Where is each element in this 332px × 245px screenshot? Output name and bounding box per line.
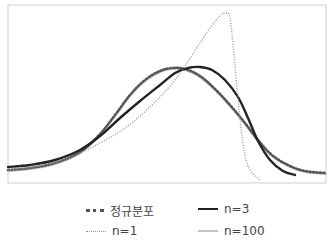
- legend-label: n=1: [112, 224, 137, 238]
- legend-item-normal: 정규분포: [86, 202, 154, 219]
- chart-legend: 정규분포 n=3 n=1 n=100: [0, 190, 332, 245]
- dotted-line-swatch-icon: [86, 231, 106, 232]
- legend-label: 정규분포: [110, 202, 154, 219]
- chart-frame: [8, 5, 326, 183]
- solid-line-swatch-icon: [198, 208, 218, 210]
- solid-line-swatch-icon: [198, 230, 218, 232]
- legend-item-n1: n=1: [86, 224, 137, 238]
- legend-item-n3: n=3: [198, 202, 249, 216]
- legend-item-n100: n=100: [198, 224, 265, 238]
- chart-plot-area: [0, 0, 332, 190]
- dotted-line-swatch-icon: [86, 209, 104, 212]
- legend-label: n=100: [224, 224, 265, 238]
- legend-label: n=3: [224, 202, 249, 216]
